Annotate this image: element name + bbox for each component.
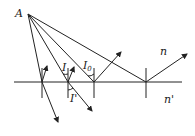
reflected-ray-4 bbox=[146, 54, 187, 82]
point-label-A: A bbox=[14, 7, 23, 20]
angle-arc-I0 bbox=[88, 74, 94, 76]
label-incidence-angle: I bbox=[61, 61, 67, 74]
angle-arc-I-prime bbox=[68, 88, 73, 90]
reflected-ray-1 bbox=[42, 66, 47, 82]
label-refraction-angle: I' bbox=[69, 92, 77, 105]
incident-ray-1 bbox=[28, 14, 42, 82]
reflected-ray-2 bbox=[68, 67, 74, 82]
refracted-ray-1 bbox=[42, 82, 58, 122]
label-medium-n-prime: n' bbox=[164, 93, 174, 106]
diagram-canvas: A I I0 I' n n' bbox=[0, 0, 195, 136]
label-medium-n: n bbox=[160, 45, 167, 58]
label-critical-angle: I0 bbox=[82, 59, 92, 73]
reflected-ray-3 bbox=[94, 52, 121, 82]
